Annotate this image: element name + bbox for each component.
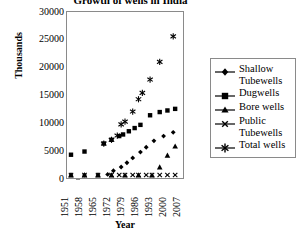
data-marks bbox=[68, 33, 178, 177]
triangle-marker-icon bbox=[214, 102, 236, 114]
x-tick-label: 2007 bbox=[172, 197, 182, 217]
legend-label: Dugwells bbox=[239, 87, 279, 99]
y-tick-label: 20000 bbox=[18, 62, 64, 72]
x-tick-label: 1979 bbox=[116, 197, 126, 217]
square-marker-icon bbox=[214, 88, 236, 100]
star-marker-icon bbox=[214, 140, 236, 152]
legend-label: Shallow Tubewells bbox=[239, 63, 282, 86]
x-tick-label: 1965 bbox=[88, 197, 98, 217]
y-tick-label: 10000 bbox=[18, 118, 64, 128]
legend-item-bore-wells[interactable]: Bore wells bbox=[214, 101, 292, 114]
plot-canvas bbox=[67, 12, 183, 178]
x-marker-icon bbox=[214, 116, 236, 128]
legend-item-public-tubewells[interactable]: Public Tubewells bbox=[214, 115, 292, 138]
x-axis-ticks: 1951 1958 1965 1972 1979 1986 1993 2000 … bbox=[0, 181, 299, 219]
x-tick-label: 1951 bbox=[60, 197, 70, 217]
legend-label: Total wells bbox=[239, 139, 285, 151]
legend-item-dugwells[interactable]: Dugwells bbox=[214, 87, 292, 100]
legend-label: Public Tubewells bbox=[239, 115, 282, 138]
y-tick-label: 5000 bbox=[18, 146, 64, 156]
x-tick-label: 1972 bbox=[102, 197, 112, 217]
y-tick-mark bbox=[76, 179, 80, 180]
legend-label: Bore wells bbox=[239, 101, 284, 113]
x-tick-label: 1958 bbox=[74, 197, 84, 217]
y-tick-label: 15000 bbox=[18, 90, 64, 100]
x-tick-label: 1986 bbox=[130, 197, 140, 217]
x-axis-title: Year bbox=[60, 219, 190, 230]
legend-item-shallow-tubewells[interactable]: Shallow Tubewells bbox=[214, 63, 292, 86]
diamond-marker-icon bbox=[214, 64, 236, 76]
chart-title: Growth of wells in India bbox=[48, 0, 213, 6]
x-tick-label: 1993 bbox=[144, 197, 154, 217]
legend-item-total-wells[interactable]: Total wells bbox=[214, 139, 292, 152]
chart-legend: Shallow Tubewells Dugwells Bore wells bbox=[210, 58, 296, 158]
plot-area bbox=[66, 11, 184, 179]
y-tick-label: 25000 bbox=[18, 34, 64, 44]
y-tick-label: 30000 bbox=[18, 7, 64, 17]
x-tick-label: 2000 bbox=[158, 197, 168, 217]
